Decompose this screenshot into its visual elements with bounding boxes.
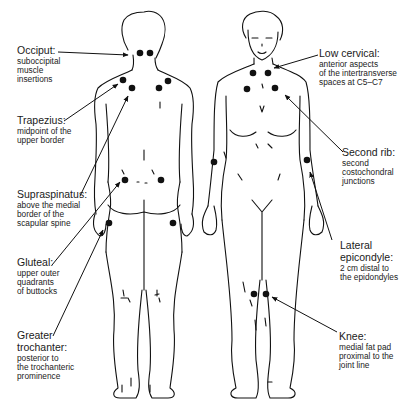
arrow-lateral-epicondyle bbox=[310, 172, 332, 240]
label-knee-title: Knee: bbox=[339, 331, 393, 343]
cropped-caption-fragment bbox=[0, 0, 417, 2]
posterior-body-outline bbox=[94, 11, 194, 398]
arrow-occiput bbox=[58, 52, 128, 55]
label-lateral-epicondyle: Lateral epicondyle: 2 cm distal to the e… bbox=[340, 240, 398, 282]
tender-point-low-cervical-right bbox=[265, 70, 272, 77]
label-trapezius-title: Trapezius: bbox=[17, 115, 71, 127]
tender-point-supraspinatus-left bbox=[129, 85, 136, 92]
arrow-second-rib bbox=[285, 95, 343, 152]
tender-point-knee-right bbox=[263, 291, 270, 298]
label-occiput-title: Occiput: bbox=[17, 45, 60, 57]
label-second-rib: Second rib: second costochondral junctio… bbox=[342, 147, 395, 187]
label-gluteal-desc-3: of buttocks bbox=[17, 287, 59, 296]
label-low-cervical-desc-3: spaces at C5–C7 bbox=[319, 78, 397, 87]
arrow-trapezius bbox=[64, 84, 118, 121]
tender-point-supraspinatus-right bbox=[156, 85, 163, 92]
label-occiput-desc-3: insertions bbox=[17, 75, 60, 84]
label-supraspinatus: Supraspinatus: above the medial border o… bbox=[17, 189, 87, 229]
tender-point-lateral-epicondyle-right bbox=[304, 157, 311, 164]
label-low-cervical-title: Low cervical: bbox=[319, 48, 397, 60]
tender-point-second-rib-right bbox=[272, 85, 279, 92]
tender-point-low-cervical-left bbox=[250, 70, 257, 77]
label-greater-trochanter: Greater trochanter: posterior to the tro… bbox=[17, 330, 74, 381]
posterior-tender-points bbox=[106, 50, 177, 227]
label-lateral-epicondyle-title-2: epicondyle: bbox=[340, 252, 398, 264]
tender-point-knee-left bbox=[251, 291, 258, 298]
tender-point-trapezius-left bbox=[120, 77, 127, 84]
arrow-low-cervical bbox=[274, 55, 318, 68]
label-greater-trochanter-title-1: Greater bbox=[17, 330, 74, 342]
label-knee-desc-3: joint line bbox=[339, 361, 393, 370]
label-occiput: Occiput: suboccipital muscle insertions bbox=[17, 45, 60, 85]
label-knee: Knee: medial fat pad proximal to the joi… bbox=[339, 331, 393, 371]
label-supraspinatus-title: Supraspinatus: bbox=[17, 189, 87, 201]
tender-point-trochanter-right bbox=[170, 220, 177, 227]
tender-point-gluteal-left bbox=[122, 177, 129, 184]
label-trapezius-desc-2: upper border bbox=[17, 136, 71, 145]
tender-point-trapezius-right bbox=[165, 78, 172, 85]
label-gluteal: Gluteal: upper outer quadrants of buttoc… bbox=[17, 257, 59, 297]
label-gluteal-title: Gluteal: bbox=[17, 257, 59, 269]
label-lateral-epicondyle-desc-2: the epidondyles bbox=[340, 273, 398, 282]
tender-point-trochanter-left bbox=[106, 220, 113, 227]
arrow-supraspinatus bbox=[80, 96, 128, 196]
arrow-greater-trochanter bbox=[53, 230, 103, 336]
label-supraspinatus-desc-3: scapular spine bbox=[17, 219, 87, 228]
arrow-knee bbox=[272, 297, 337, 332]
tender-point-second-rib-left bbox=[244, 86, 251, 93]
label-second-rib-title: Second rib: bbox=[342, 147, 395, 159]
label-lateral-epicondyle-title-1: Lateral bbox=[340, 240, 398, 252]
tender-point-lateral-epicondyle-left bbox=[211, 159, 218, 166]
label-low-cervical: Low cervical: anterior aspects of the in… bbox=[319, 48, 397, 88]
anterior-body-outline bbox=[202, 11, 323, 398]
tender-point-gluteal-right bbox=[158, 177, 165, 184]
tender-point-occiput-left bbox=[137, 50, 144, 57]
label-second-rib-desc-3: junctions bbox=[342, 177, 395, 186]
label-trapezius: Trapezius: midpoint of the upper border bbox=[17, 115, 71, 145]
label-greater-trochanter-desc-3: prominence bbox=[17, 372, 74, 381]
tender-point-occiput-right bbox=[147, 50, 154, 57]
label-greater-trochanter-title-2: trochanter: bbox=[17, 342, 74, 354]
